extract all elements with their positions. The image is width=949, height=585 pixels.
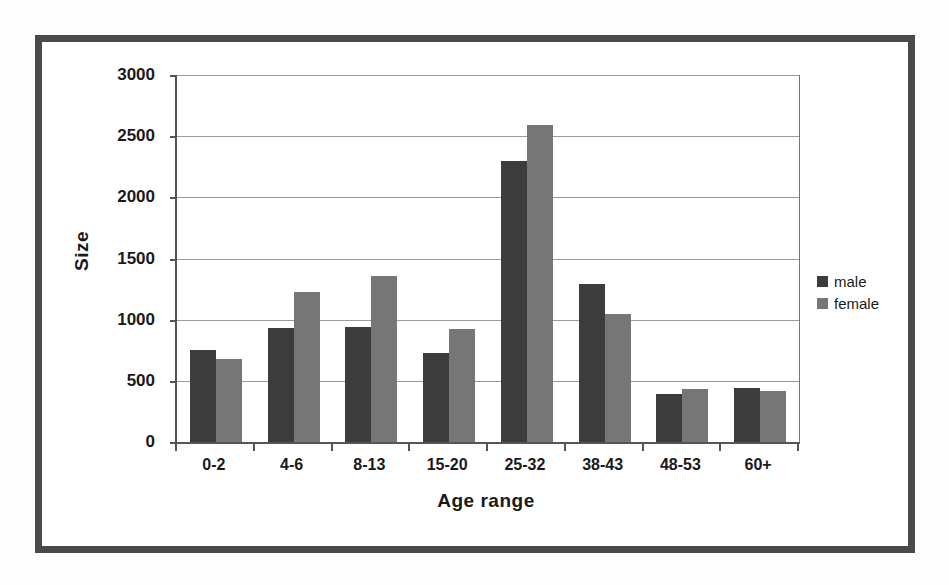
y-tick-mark (170, 381, 177, 383)
y-tick-label: 0 (75, 432, 155, 452)
bar-female-8-13 (371, 276, 397, 442)
y-tick-label: 3000 (75, 65, 155, 85)
bar-chart: Size 050010001500200025003000 0-24-68-13… (42, 42, 908, 546)
bar-male-25-32 (501, 161, 527, 442)
figure-frame: Size 050010001500200025003000 0-24-68-13… (35, 35, 915, 553)
bar-group (501, 75, 553, 442)
bar-male-4-6 (268, 328, 294, 442)
x-tick-label: 8-13 (324, 456, 414, 474)
bar-female-15-20 (449, 329, 475, 442)
legend-label: male (834, 273, 867, 290)
x-tick-mark (408, 442, 410, 451)
plot-area: 050010001500200025003000 (175, 75, 800, 444)
legend-swatch-icon (817, 276, 828, 287)
chart-legend: malefemale (817, 270, 907, 314)
y-tick-label: 2500 (75, 126, 155, 146)
legend-swatch-icon (817, 298, 828, 309)
y-tick-mark (170, 136, 177, 138)
bar-group (190, 75, 242, 442)
y-tick-mark (170, 320, 177, 322)
x-tick-mark (642, 442, 644, 451)
x-tick-mark (719, 442, 721, 451)
y-tick-label: 1500 (75, 249, 155, 269)
legend-label: female (834, 295, 879, 312)
x-tick-mark (486, 442, 488, 451)
bar-male-38-43 (579, 284, 605, 442)
y-tick-label: 1000 (75, 310, 155, 330)
legend-item-male: male (817, 270, 907, 292)
x-tick-label: 38-43 (558, 456, 648, 474)
x-tick-label: 48-53 (635, 456, 725, 474)
x-tick-label: 0-2 (169, 456, 259, 474)
bars-layer (177, 75, 799, 442)
x-tick-mark (564, 442, 566, 451)
x-axis-title: Age range (175, 490, 797, 512)
bar-female-38-43 (605, 314, 631, 442)
legend-item-female: female (817, 292, 907, 314)
bar-group (423, 75, 475, 442)
bar-female-60+ (760, 391, 786, 442)
y-tick-label: 2000 (75, 187, 155, 207)
y-tick-mark (170, 75, 177, 77)
bar-female-25-32 (527, 125, 553, 442)
y-tick-label: 500 (75, 371, 155, 391)
bar-group (656, 75, 708, 442)
y-tick-mark (170, 259, 177, 261)
bar-group (579, 75, 631, 442)
bar-male-15-20 (423, 353, 449, 442)
bar-male-0-2 (190, 350, 216, 442)
x-tick-label: 4-6 (247, 456, 337, 474)
bar-male-48-53 (656, 394, 682, 442)
x-tick-mark (253, 442, 255, 451)
bar-group (345, 75, 397, 442)
bar-male-8-13 (345, 327, 371, 442)
scanned-page: Size 050010001500200025003000 0-24-68-13… (0, 0, 949, 585)
bar-female-48-53 (682, 389, 708, 442)
x-tick-label: 15-20 (402, 456, 492, 474)
bar-female-0-2 (216, 359, 242, 442)
bar-group (268, 75, 320, 442)
x-tick-label: 60+ (713, 456, 803, 474)
x-tick-mark (175, 442, 177, 451)
x-tick-mark (797, 442, 799, 451)
y-tick-mark (170, 197, 177, 199)
bar-male-60+ (734, 388, 760, 442)
x-tick-label: 25-32 (480, 456, 570, 474)
bar-female-4-6 (294, 292, 320, 442)
x-tick-mark (331, 442, 333, 451)
bar-group (734, 75, 786, 442)
